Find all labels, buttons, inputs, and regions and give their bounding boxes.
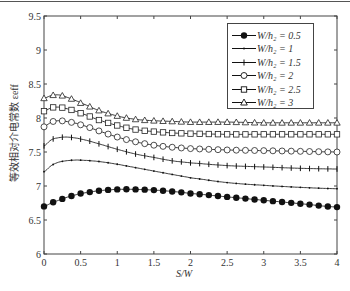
data-point — [334, 132, 339, 137]
data-point — [299, 186, 301, 188]
data-point — [261, 197, 267, 203]
legend-item: W/h₂ = 1 — [232, 42, 312, 55]
y-tick-label: 9 — [36, 45, 41, 56]
data-point — [309, 187, 311, 189]
data-point — [105, 120, 110, 125]
data-point — [87, 114, 92, 119]
data-point — [180, 175, 182, 177]
data-point — [279, 148, 285, 154]
data-point — [270, 132, 275, 137]
data-point — [169, 188, 175, 194]
data-point — [270, 198, 276, 204]
data-point — [178, 145, 184, 151]
data-point — [133, 127, 138, 132]
data-point — [279, 132, 284, 137]
data-point — [169, 144, 175, 150]
data-point — [124, 125, 129, 130]
y-tick-label: 8 — [36, 113, 41, 124]
filled-circle-marker-icon — [232, 29, 256, 42]
open-square-marker-icon — [232, 83, 256, 96]
data-point — [242, 195, 248, 201]
data-point — [126, 165, 128, 167]
data-point — [316, 132, 321, 137]
data-point — [160, 130, 165, 135]
data-point — [107, 162, 109, 164]
data-point — [196, 191, 202, 197]
data-point — [151, 187, 157, 193]
data-point — [68, 119, 74, 125]
data-point — [243, 132, 248, 137]
open-triangle-marker-icon — [232, 96, 256, 109]
x-tick-label: 2.5 — [221, 257, 234, 268]
x-tick-label: 1 — [115, 257, 120, 268]
data-point — [325, 149, 331, 155]
data-point — [272, 185, 274, 187]
data-point — [306, 201, 312, 207]
data-point — [224, 147, 230, 153]
y-tick-label: 6 — [36, 249, 41, 260]
data-point — [215, 131, 220, 136]
dot-marker-icon — [232, 42, 256, 55]
legend-item: W/h₂ = 0.5 — [232, 29, 312, 42]
legend-item: W/h₂ = 3 — [232, 96, 312, 109]
data-point — [59, 118, 65, 124]
legend-item: W/h₂ = 2 — [232, 69, 312, 82]
data-point — [316, 149, 322, 155]
data-point — [52, 164, 54, 166]
data-point — [98, 161, 100, 163]
y-tick-label: 7 — [36, 181, 41, 192]
data-point — [60, 105, 65, 110]
data-point — [41, 109, 46, 114]
data-point — [318, 187, 320, 189]
y-tick-label: 9.5 — [29, 11, 42, 22]
data-point — [197, 131, 202, 136]
data-point — [254, 184, 256, 186]
data-point — [115, 123, 120, 128]
data-point — [233, 147, 239, 153]
data-point — [325, 203, 331, 209]
data-point — [41, 203, 47, 209]
data-point — [105, 131, 111, 137]
data-point — [297, 200, 303, 206]
open-circle-marker-icon — [232, 69, 256, 82]
x-tick-label: 3.5 — [294, 257, 307, 268]
x-tick-label: 4 — [335, 257, 340, 268]
data-point — [224, 132, 229, 137]
data-point — [188, 131, 193, 136]
x-axis-label: S/W — [176, 268, 192, 279]
data-point — [142, 128, 147, 133]
data-point — [41, 124, 47, 130]
data-point — [217, 181, 219, 183]
data-point — [80, 159, 82, 161]
data-point — [160, 143, 166, 149]
data-point — [288, 148, 294, 154]
data-point — [50, 199, 56, 205]
x-tick-label: 2 — [188, 257, 193, 268]
data-point — [208, 179, 210, 181]
plus-marker-icon — [232, 56, 256, 69]
x-tick-label: 0 — [42, 257, 47, 268]
data-point — [61, 160, 63, 162]
data-point — [289, 132, 294, 137]
data-point — [187, 190, 193, 196]
y-axis-label: 等效相对介电常数 εeff — [6, 53, 22, 213]
data-point — [252, 132, 257, 137]
data-point — [235, 183, 237, 185]
data-point — [78, 122, 84, 128]
data-point — [68, 193, 74, 199]
data-point — [50, 118, 56, 124]
data-point — [251, 196, 257, 202]
y-tick-label: 8.5 — [29, 79, 42, 90]
data-point — [133, 139, 139, 145]
legend-item: W/h₂ = 1.5 — [232, 56, 312, 69]
data-point — [215, 147, 221, 153]
data-point — [114, 134, 120, 140]
data-point — [142, 141, 148, 147]
data-point — [334, 149, 340, 155]
x-tick-label: 1.5 — [148, 257, 161, 268]
data-point — [334, 204, 340, 210]
data-point — [307, 132, 312, 137]
data-point — [142, 186, 148, 192]
legend: W/h₂ = 0.5 W/h₂ = 1 W/h₂ = 1.5 W/h₂ = 2 … — [227, 23, 314, 109]
data-point — [215, 193, 221, 199]
